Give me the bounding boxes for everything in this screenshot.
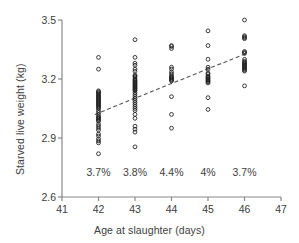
percentage-label: 4% (200, 166, 215, 178)
y-tick-label: 2.6 (22, 191, 56, 203)
data-point (97, 152, 101, 156)
plot-area (0, 0, 299, 243)
data-point (170, 113, 174, 117)
trend-line-path (95, 53, 246, 114)
x-tick-label: 42 (93, 203, 105, 215)
trend-line (95, 53, 246, 114)
percentage-label: 3.8% (123, 166, 147, 178)
x-tick-label: 43 (129, 203, 141, 215)
x-tick-label: 41 (56, 203, 68, 215)
data-point (133, 38, 137, 42)
x-tick-label: 47 (275, 203, 287, 215)
data-point (243, 84, 247, 88)
data-point (133, 113, 137, 117)
data-point (206, 44, 210, 48)
data-point (133, 145, 137, 149)
x-axis-title: Age at slaughter (days) (0, 224, 299, 236)
x-tick-label: 44 (166, 203, 178, 215)
x-tick-label: 46 (239, 203, 251, 215)
percentage-label: 3.7% (233, 166, 257, 178)
data-point (170, 95, 174, 99)
y-tick-label: 3.5 (22, 14, 56, 26)
data-point (133, 116, 137, 120)
y-tick-label: 3.2 (22, 73, 56, 85)
data-point (206, 29, 210, 33)
data-point (206, 96, 210, 100)
percentage-label: 3.7% (87, 166, 111, 178)
y-tick-label: 2.9 (22, 132, 56, 144)
scatter-chart: 2.62.93.23.541424344454647 3.7%3.8%4.4%4… (0, 0, 299, 243)
data-point (206, 57, 210, 61)
y-axis-title: Starved live weight (kg) (14, 63, 26, 175)
data-point (97, 55, 101, 59)
data-point (97, 67, 101, 71)
data-point (133, 55, 137, 59)
x-tick-label: 45 (202, 203, 214, 215)
data-point (243, 18, 247, 22)
data-point (170, 126, 174, 130)
data-point (206, 108, 210, 112)
percentage-label: 4.4% (160, 166, 184, 178)
data-points (97, 18, 247, 156)
